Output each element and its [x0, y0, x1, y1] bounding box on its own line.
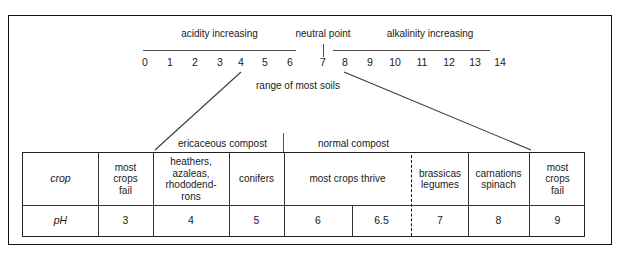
row-label-ph: pH	[23, 205, 98, 236]
label-acidity-increasing: acidity increasing	[143, 28, 296, 39]
ph-cell-4: 6	[284, 205, 352, 236]
row-label-crop: crop	[23, 153, 98, 205]
ph-cell-6: 7	[412, 205, 468, 236]
crop-cell-7: most crops fail	[529, 153, 586, 205]
crop-ph-table: crop most crops fail heathers, azaleas, …	[22, 152, 585, 237]
ph-cell-3: 5	[229, 205, 284, 236]
crop-cell-3: conifers	[229, 153, 284, 205]
tick-10: 10	[386, 56, 404, 68]
crop-cell-4: most crops thrive	[284, 153, 411, 205]
tick-4: 4	[232, 56, 250, 68]
caption-range-of-most-soils: range of most soils	[256, 80, 340, 91]
tick-12: 12	[440, 56, 458, 68]
crop-cell-6: carnations spinach	[468, 153, 529, 205]
tick-1: 1	[161, 56, 179, 68]
crop-cell-5: brassicas legumes	[412, 153, 468, 205]
tick-5: 5	[256, 56, 274, 68]
tick-14: 14	[491, 56, 509, 68]
tick-3: 3	[211, 56, 229, 68]
tick-7: 7	[314, 56, 332, 68]
tick-2: 2	[186, 56, 204, 68]
alkalinity-rule	[333, 50, 490, 51]
tick-11: 11	[413, 56, 431, 68]
ph-cell-2: 4	[153, 205, 229, 236]
tick-13: 13	[466, 56, 484, 68]
acidity-rule	[143, 50, 296, 51]
tick-9: 9	[361, 56, 379, 68]
label-alkalinity-increasing: alkalinity increasing	[370, 28, 490, 39]
crop-cell-1: most crops fail	[98, 153, 153, 205]
ph-cell-1: 3	[98, 205, 153, 236]
diagram-canvas: acidity increasing neutral point alkalin…	[0, 0, 625, 260]
header-normal-compost: normal compost	[318, 138, 389, 149]
ph-cell-8: 9	[529, 205, 586, 236]
tick-6: 6	[281, 56, 299, 68]
ph-cell-7: 8	[468, 205, 529, 236]
tick-8: 8	[336, 56, 354, 68]
ph-cell-5: 6.5	[352, 205, 411, 236]
header-ericaceous-compost: ericaceous compost	[178, 138, 267, 149]
label-neutral-point: neutral point	[283, 28, 363, 39]
compost-header-divider	[283, 133, 284, 152]
crop-cell-2: heathers, azaleas, rhododend- rons	[153, 153, 229, 205]
tick-0: 0	[136, 56, 154, 68]
